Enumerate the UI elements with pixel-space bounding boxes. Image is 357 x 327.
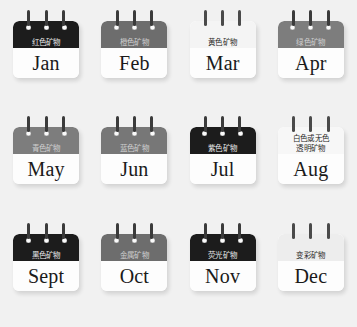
binding-ring-icon xyxy=(45,10,48,26)
calendar-card-oct[interactable]: 金属矿物 Oct xyxy=(101,234,167,291)
calendar-card-sept[interactable]: 黑色矿物 Sept xyxy=(13,234,79,291)
month-label: Dec xyxy=(294,266,327,286)
calendar-cell: 橙色矿物 Feb xyxy=(90,4,178,110)
card-frame: 金属矿物 Oct xyxy=(101,234,167,291)
punch-holes-icon xyxy=(13,131,79,138)
calendar-card-jun[interactable]: 蓝色矿物 Jun xyxy=(101,127,167,184)
category-label: 变彩矿物 xyxy=(296,251,325,260)
card-body: Oct xyxy=(101,261,167,291)
calendar-card-nov[interactable]: 荧光矿物 Nov xyxy=(190,234,256,291)
month-label: May xyxy=(27,159,64,179)
binding-rings-icon xyxy=(278,116,344,132)
binding-ring-icon xyxy=(62,116,65,132)
binding-ring-icon xyxy=(45,116,48,132)
calendar-cell: 紫色矿物 Jul xyxy=(179,110,267,216)
calendar-cell: 荧光矿物 Nov xyxy=(179,217,267,323)
category-label-line-2: 透明矿物 xyxy=(293,144,330,154)
calendar-card-feb[interactable]: 橙色矿物 Feb xyxy=(101,21,167,78)
binding-ring-icon xyxy=(133,116,136,132)
calendar-cell: 红色矿物 Jan xyxy=(2,4,90,110)
calendar-cell: 蓝色矿物 Jun xyxy=(90,110,178,216)
binding-ring-icon xyxy=(221,10,224,26)
month-label: Jul xyxy=(211,159,235,179)
binding-ring-icon xyxy=(327,223,330,239)
calendar-card-may[interactable]: 青色矿物 May xyxy=(13,127,79,184)
month-label: Sept xyxy=(28,266,64,286)
punch-holes-icon xyxy=(190,131,256,138)
binding-ring-icon xyxy=(27,116,30,132)
punch-holes-icon xyxy=(101,25,167,32)
binding-ring-icon xyxy=(150,116,153,132)
calendar-cell: 青色矿物 May xyxy=(2,110,90,216)
binding-rings-icon xyxy=(13,10,79,26)
binding-ring-icon xyxy=(238,116,241,132)
category-label: 金属矿物 xyxy=(120,251,149,260)
binding-ring-icon xyxy=(221,223,224,239)
binding-ring-icon xyxy=(150,10,153,26)
card-frame: 变彩矿物 Dec xyxy=(278,234,344,291)
calendar-card-apr[interactable]: 绿色矿物 Apr xyxy=(278,21,344,78)
binding-ring-icon xyxy=(204,116,207,132)
calendar-cell: 黄色矿物 Mar xyxy=(179,4,267,110)
category-label: 黄色矿物 xyxy=(208,38,237,47)
month-label: Oct xyxy=(120,266,149,286)
binding-ring-icon xyxy=(204,10,207,26)
card-frame: 荧光矿物 Nov xyxy=(190,234,256,291)
card-frame: 红色矿物 Jan xyxy=(13,21,79,78)
binding-ring-icon xyxy=(27,10,30,26)
category-label: 蓝色矿物 xyxy=(120,144,149,153)
binding-rings-icon xyxy=(101,116,167,132)
binding-ring-icon xyxy=(133,223,136,239)
binding-ring-icon xyxy=(116,116,119,132)
category-label: 白色或无色 透明矿物 xyxy=(293,134,330,153)
card-frame: 黑色矿物 Sept xyxy=(13,234,79,291)
binding-ring-icon xyxy=(45,223,48,239)
punch-holes-icon xyxy=(101,131,167,138)
month-label: Jan xyxy=(32,53,59,73)
calendar-card-dec[interactable]: 变彩矿物 Dec xyxy=(278,234,344,291)
calendar-card-mar[interactable]: 黄色矿物 Mar xyxy=(190,21,256,78)
binding-rings-icon xyxy=(190,10,256,26)
calendar-cell: 白色或无色 透明矿物 Aug xyxy=(267,110,355,216)
calendar-cell: 变彩矿物 Dec xyxy=(267,217,355,323)
binding-ring-icon xyxy=(327,10,330,26)
month-label: Mar xyxy=(206,53,240,73)
card-body: Jun xyxy=(101,154,167,184)
binding-ring-icon xyxy=(309,116,312,132)
punch-holes-icon xyxy=(278,25,344,32)
calendar-cell: 金属矿物 Oct xyxy=(90,217,178,323)
card-body: Sept xyxy=(13,261,79,291)
card-frame: 白色或无色 透明矿物 Aug xyxy=(278,127,344,184)
calendar-card-jan[interactable]: 红色矿物 Jan xyxy=(13,21,79,78)
punch-holes-icon xyxy=(13,25,79,32)
binding-rings-icon xyxy=(101,10,167,26)
binding-rings-icon xyxy=(190,116,256,132)
binding-ring-icon xyxy=(62,10,65,26)
binding-ring-icon xyxy=(150,223,153,239)
binding-ring-icon xyxy=(62,223,65,239)
binding-ring-icon xyxy=(238,10,241,26)
binding-rings-icon xyxy=(13,223,79,239)
category-label: 紫色矿物 xyxy=(208,144,237,153)
binding-rings-icon xyxy=(190,223,256,239)
calendar-grid: 红色矿物 Jan xyxy=(0,0,357,327)
card-frame: 蓝色矿物 Jun xyxy=(101,127,167,184)
calendar-card-jul[interactable]: 紫色矿物 Jul xyxy=(190,127,256,184)
card-body: Jul xyxy=(190,154,256,184)
binding-ring-icon xyxy=(292,116,295,132)
card-frame: 紫色矿物 Jul xyxy=(190,127,256,184)
binding-ring-icon xyxy=(116,10,119,26)
card-body: Dec xyxy=(278,261,344,291)
category-label: 橙色矿物 xyxy=(120,38,149,47)
card-body: Mar xyxy=(190,48,256,78)
category-label-line-1: 白色或无色 xyxy=(293,134,330,144)
binding-ring-icon xyxy=(133,10,136,26)
binding-ring-icon xyxy=(238,223,241,239)
binding-ring-icon xyxy=(327,116,330,132)
category-label: 红色矿物 xyxy=(32,38,61,47)
binding-ring-icon xyxy=(309,223,312,239)
binding-ring-icon xyxy=(309,10,312,26)
month-label: Jun xyxy=(120,159,148,179)
calendar-card-aug[interactable]: 白色或无色 透明矿物 Aug xyxy=(278,127,344,184)
category-label: 青色矿物 xyxy=(32,144,61,153)
